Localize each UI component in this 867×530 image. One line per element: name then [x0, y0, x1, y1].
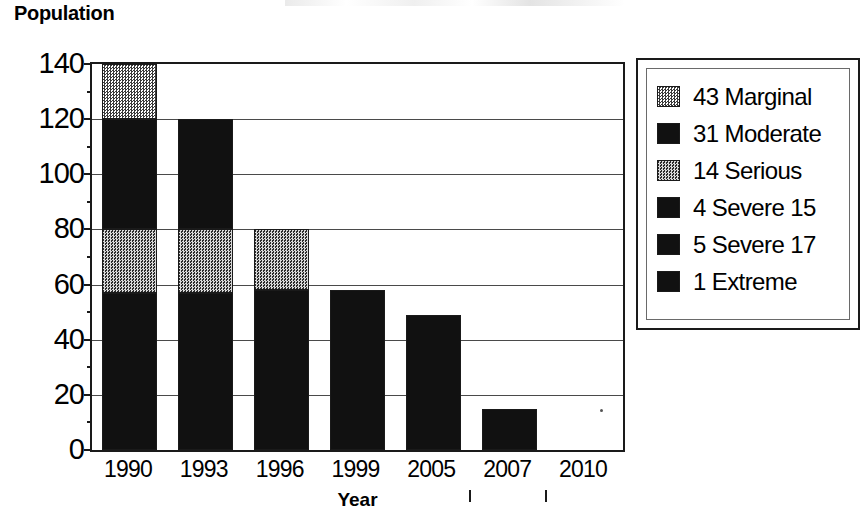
legend-inner-frame: 43 Marginal31 Moderate14 Serious4 Severe… — [646, 68, 850, 320]
bar-segment[interactable] — [178, 293, 233, 450]
scan-speck — [600, 409, 603, 412]
y-tick-label-0: 0 — [0, 435, 84, 464]
bar-segment[interactable] — [330, 290, 385, 450]
legend-label: 43 Marginal — [693, 83, 812, 111]
x-tick-label-1999: 1999 — [318, 456, 394, 483]
x-tick-label-1996: 1996 — [242, 456, 318, 483]
stacked-bar-chart: Population 140120100806040200 1990199319… — [0, 0, 867, 530]
bar-2010[interactable] — [558, 64, 613, 450]
legend-item-3[interactable]: 4 Severe 15 — [657, 189, 849, 226]
x-axis-tick-labels: 1990199319961999200520072010 — [90, 456, 625, 490]
bar-segment[interactable] — [178, 229, 233, 292]
bar-segment[interactable] — [254, 290, 309, 450]
legend-label: 31 Moderate — [693, 120, 821, 148]
x-tick-label-2007: 2007 — [469, 456, 545, 483]
legend-label: 14 Serious — [693, 157, 802, 185]
legend-item-0[interactable]: 43 Marginal — [657, 78, 849, 115]
y-tick-label-120: 120 — [0, 104, 84, 133]
x-tick-label-1990: 1990 — [90, 456, 166, 483]
bar-segment[interactable] — [178, 119, 233, 229]
plot-area — [90, 62, 625, 452]
y-tick-label-140: 140 — [0, 49, 84, 78]
x-tick-label-2005: 2005 — [393, 456, 469, 483]
x-axis-title: Year — [90, 489, 625, 511]
bar-1993[interactable] — [178, 64, 233, 450]
legend-label: 1 Extreme — [693, 268, 797, 296]
y-tick-label-60: 60 — [0, 270, 84, 299]
bar-segment[interactable] — [406, 315, 461, 450]
y-tick-label-100: 100 — [0, 159, 84, 188]
legend-label: 4 Severe 15 — [693, 194, 816, 222]
bar-segment[interactable] — [482, 409, 537, 450]
y-axis-tick-labels: 140120100806040200 — [0, 62, 84, 452]
bar-segment[interactable] — [102, 64, 157, 119]
bar-segment[interactable] — [254, 229, 309, 290]
bar-segment[interactable] — [102, 229, 157, 292]
bar-1996[interactable] — [254, 64, 309, 450]
legend-swatch-icon — [657, 197, 680, 218]
y-tick-label-20: 20 — [0, 380, 84, 409]
legend-item-1[interactable]: 31 Moderate — [657, 115, 849, 152]
legend-swatch-icon — [657, 234, 680, 255]
x-tick-label-1993: 1993 — [166, 456, 242, 483]
legend-label: 5 Severe 17 — [693, 231, 816, 259]
bar-2007[interactable] — [482, 64, 537, 450]
scan-artifact — [285, 0, 625, 6]
y-tick-label-40: 40 — [0, 325, 84, 354]
legend-swatch-icon — [657, 123, 680, 144]
legend-swatch-icon — [657, 271, 680, 292]
x-tick-label-2010: 2010 — [545, 456, 621, 483]
y-axis-title: Population — [14, 2, 114, 25]
legend-item-5[interactable]: 1 Extreme — [657, 263, 849, 300]
bar-2005[interactable] — [406, 64, 461, 450]
legend-swatch-icon — [657, 86, 680, 107]
legend-item-4[interactable]: 5 Severe 17 — [657, 226, 849, 263]
chart-legend: 43 Marginal31 Moderate14 Serious4 Severe… — [636, 58, 860, 330]
bar-1990[interactable] — [102, 64, 157, 450]
y-tick-label-80: 80 — [0, 214, 84, 243]
bar-1999[interactable] — [330, 64, 385, 450]
bar-segment[interactable] — [102, 119, 157, 229]
bar-segment[interactable] — [102, 293, 157, 450]
legend-swatch-icon — [657, 160, 680, 181]
legend-item-2[interactable]: 14 Serious — [657, 152, 849, 189]
